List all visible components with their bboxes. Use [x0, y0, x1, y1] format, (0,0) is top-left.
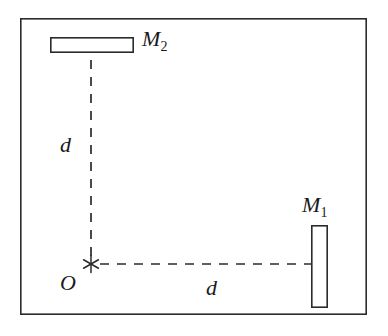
- distance-label-horizontal: d: [206, 277, 217, 299]
- diagram-canvas: [0, 0, 388, 336]
- optics-diagram-figure: M2 M1 d d O: [0, 0, 388, 336]
- distance-label-vertical: d: [60, 134, 71, 156]
- origin-point-label: O: [60, 272, 76, 294]
- mirror-m1-label-subscript: 1: [321, 204, 328, 220]
- mirror-m1-shape: [312, 226, 327, 307]
- mirror-m2-label-letter: M: [142, 26, 160, 51]
- mirror-m2-shape: [51, 38, 133, 52]
- mirror-m1-label: M1: [302, 194, 327, 216]
- mirror-m2-label-subscript: 2: [161, 38, 168, 54]
- mirror-m1-label-letter: M: [302, 192, 320, 217]
- mirror-m2-label: M2: [142, 28, 167, 50]
